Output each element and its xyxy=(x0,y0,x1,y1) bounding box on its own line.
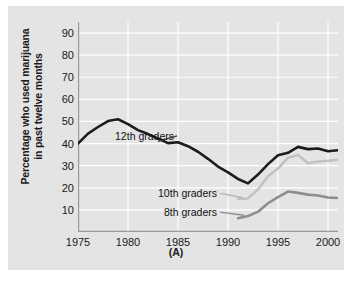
y-tick-label: 20 xyxy=(62,182,74,194)
figure-caption: (A) xyxy=(8,246,344,258)
y-tick-label: 10 xyxy=(62,204,74,216)
y-tick-label: 50 xyxy=(62,115,74,127)
y-tick-label: 80 xyxy=(62,49,74,61)
series-label-12th-graders: 12th graders xyxy=(115,130,174,142)
y-tick-label: 60 xyxy=(62,93,74,105)
series-label-10th-graders: 10th graders xyxy=(158,187,217,199)
y-axis-title-line2: in past twelve months xyxy=(31,53,43,160)
series-label-8th-graders: 8th graders xyxy=(164,206,217,218)
plot-background xyxy=(78,22,338,232)
y-tick-label: 70 xyxy=(62,71,74,83)
y-tick-label: 30 xyxy=(62,160,74,172)
y-tick-label: 90 xyxy=(62,27,74,39)
y-axis-title-line1: Percentage who used marijuana xyxy=(19,28,31,184)
figure-panel: Percentage who used marijuana in past tw… xyxy=(8,6,344,270)
line-chart-svg xyxy=(78,22,338,232)
y-axis-title: Percentage who used marijuana in past tw… xyxy=(19,0,44,222)
y-tick-label: 40 xyxy=(62,138,74,150)
plot-area: 102030405060708090 197519801985199019952… xyxy=(78,22,338,232)
